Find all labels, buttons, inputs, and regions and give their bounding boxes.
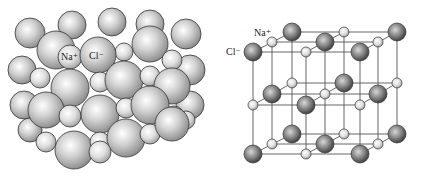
- sodium-label-right: Na⁺: [254, 27, 271, 38]
- ball-and-stick-lattice: [0, 0, 424, 179]
- nacl-crystal-figure: Na⁺ Cl⁻: [0, 0, 424, 179]
- chloride-label-right: Cl⁻: [226, 46, 241, 57]
